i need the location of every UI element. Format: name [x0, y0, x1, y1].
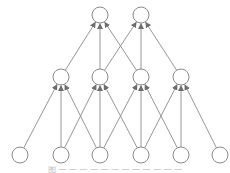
- edge-arrow: [146, 22, 177, 70]
- hidden-node: [173, 69, 189, 85]
- input-node: [12, 147, 28, 163]
- input-node: [133, 147, 149, 163]
- edges-group: [24, 22, 217, 148]
- output-node: [133, 7, 149, 23]
- output-node: [92, 7, 108, 23]
- hidden-node: [133, 69, 149, 85]
- input-node: [212, 147, 228, 163]
- nodes-group: [12, 7, 228, 163]
- input-node: [53, 147, 69, 163]
- hidden-node: [92, 69, 108, 85]
- input-node: [92, 147, 108, 163]
- hidden-node: [53, 69, 69, 85]
- input-node: [173, 147, 189, 163]
- edge-arrow: [185, 85, 217, 148]
- edge-arrow: [65, 22, 95, 70]
- figure-caption: 图 — — — — — — — — — — — —: [0, 166, 230, 173]
- edge-arrow: [24, 85, 57, 148]
- network-diagram: [0, 0, 230, 173]
